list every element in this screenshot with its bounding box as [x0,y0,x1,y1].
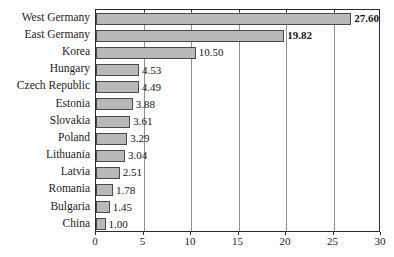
bar [96,218,106,230]
bar-row: 1.78 [96,184,379,196]
x-tick-label: 15 [232,236,243,247]
x-tick-label: 0 [92,236,98,247]
bar-value-label: 19.82 [287,30,312,41]
bar-value-label: 3.88 [136,99,155,110]
x-top-tick-mark [334,9,335,12]
category-label: East Germany [25,29,90,41]
x-top-tick-mark [144,9,145,12]
x-top-tick-mark [239,9,240,12]
x-top-tick-mark [191,9,192,12]
bar [96,64,139,76]
bar [96,116,130,128]
bar [96,167,120,179]
bar-row: 10.50 [96,47,379,59]
bar-value-label: 4.49 [142,82,161,93]
category-label: Bulgaria [50,201,90,213]
category-label: Slovakia [50,115,90,127]
bar-value-label: 10.50 [199,47,224,58]
x-tick-label: 20 [280,236,291,247]
bar [96,47,196,59]
category-label: China [63,218,90,230]
category-label: Romania [48,183,90,195]
x-tick-label: 30 [375,236,386,247]
x-tick-label: 10 [185,236,196,247]
bar [96,13,351,25]
bar-value-label: 1.78 [116,185,135,196]
bar-value-label: 3.04 [128,150,147,161]
x-tick-label: 25 [327,236,338,247]
bar-row: 27.60 [96,13,379,25]
x-top-tick-mark [286,9,287,12]
bar-row: 19.82 [96,30,379,42]
bar-row: 1.00 [96,218,379,230]
category-label: Poland [58,132,90,144]
category-label: Lithuania [46,149,90,161]
category-label: Estonia [56,98,91,110]
bar-value-label: 4.53 [142,65,161,76]
bar [96,201,110,213]
category-label: Czech Republic [17,80,90,92]
category-label: West Germany [22,12,90,24]
bar-value-label: 2.51 [123,167,142,178]
bar-row: 3.61 [96,116,379,128]
bar-row: 1.45 [96,201,379,213]
bar-row: 4.53 [96,64,379,76]
bar [96,184,113,196]
category-label: Hungary [50,63,90,75]
category-axis: West GermanyEast GermanyKoreaHungaryCzec… [0,9,93,232]
x-tick-label: 5 [140,236,146,247]
bar [96,150,125,162]
bar-value-label: 1.45 [113,202,132,213]
category-label: Latvia [61,166,90,178]
bar-row: 3.29 [96,133,379,145]
value-axis: 051015202530 [95,232,380,252]
bar [96,81,139,93]
bar-value-label: 3.29 [130,133,149,144]
bar [96,30,284,42]
bar-row: 4.49 [96,81,379,93]
bar-row: 3.88 [96,98,379,110]
plot-area: 27.6019.8210.504.534.493.883.613.293.042… [95,9,380,232]
bar [96,133,127,145]
bar-value-label: 27.60 [354,13,379,24]
bar [96,98,133,110]
bars-layer: 27.6019.8210.504.534.493.883.613.293.042… [96,10,379,231]
bar-row: 2.51 [96,167,379,179]
category-label: Korea [62,46,90,58]
bar-value-label: 3.61 [133,116,152,127]
bar-chart: West GermanyEast GermanyKoreaHungaryCzec… [0,0,394,257]
bar-value-label: 1.00 [109,219,128,230]
bar-row: 3.04 [96,150,379,162]
